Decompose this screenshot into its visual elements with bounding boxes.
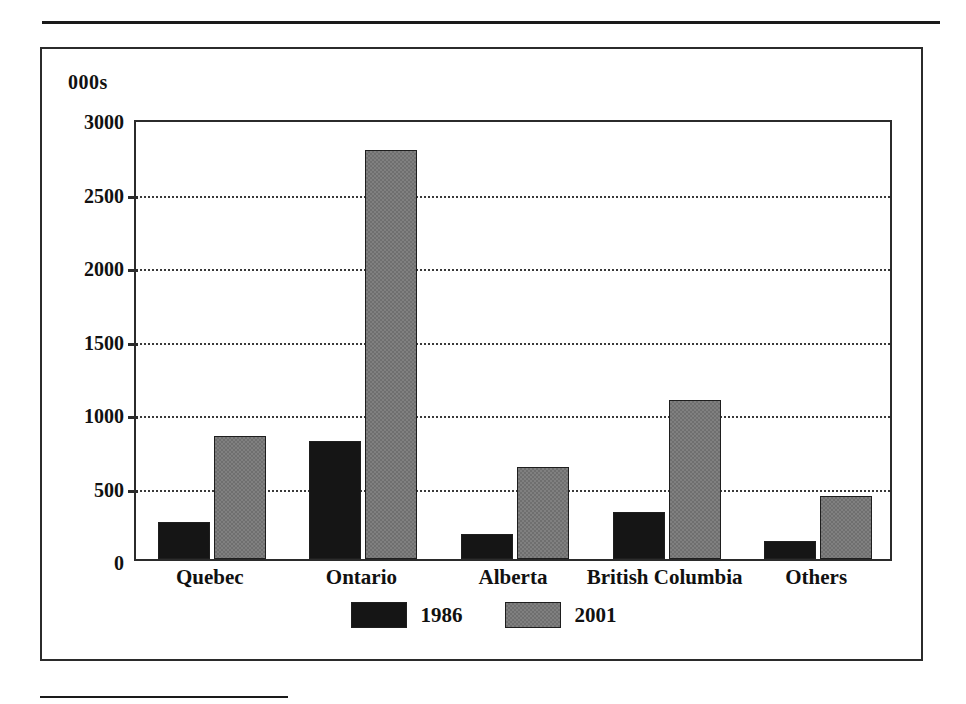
bar-alberta-1986	[461, 534, 513, 559]
bar-ontario-1986	[309, 441, 361, 559]
bar-british-columbia-1986	[613, 512, 665, 559]
bar-group	[309, 122, 417, 559]
y-axis-tick-label: 1000	[84, 405, 124, 428]
y-axis-tick-label: 2000	[84, 258, 124, 281]
legend-label-1986: 1986	[421, 603, 463, 628]
x-axis-label-british-columbia: British Columbia	[587, 565, 743, 590]
x-axis-label-alberta: Alberta	[479, 565, 548, 590]
x-axis-label-ontario: Ontario	[326, 565, 397, 590]
figure-frame: 000s 050010001500200025003000 QuebecOnta…	[40, 47, 923, 661]
bar-ontario-2001	[365, 150, 417, 559]
chart-legend: 19862001	[42, 602, 925, 628]
x-axis-label-others: Others	[785, 565, 847, 590]
bar-chart: 000s 050010001500200025003000 QuebecOnta…	[42, 49, 925, 663]
page-bottom-rule	[40, 696, 288, 698]
bars-layer	[136, 122, 890, 559]
legend-swatch-2001	[505, 602, 561, 628]
legend-swatch-1986	[351, 602, 407, 628]
x-axis-category-labels: QuebecOntarioAlbertaBritish ColumbiaOthe…	[134, 565, 892, 595]
y-axis-tick-label: 500	[94, 478, 124, 501]
legend-label-2001: 2001	[575, 603, 617, 628]
plot-area: 050010001500200025003000	[134, 120, 892, 561]
bar-others-2001	[820, 496, 872, 559]
y-axis-tick-label: 2500	[84, 184, 124, 207]
legend-item-2001: 2001	[505, 602, 617, 628]
bar-quebec-1986	[158, 522, 210, 559]
bar-group	[764, 122, 872, 559]
y-axis-tick-label: 0	[114, 552, 124, 575]
bar-group	[613, 122, 721, 559]
bar-british-columbia-2001	[669, 400, 721, 559]
page-top-rule	[42, 21, 940, 24]
legend-item-1986: 1986	[351, 602, 463, 628]
bar-alberta-2001	[517, 467, 569, 559]
x-axis-label-quebec: Quebec	[176, 565, 244, 590]
y-axis-tick-label: 3000	[84, 111, 124, 134]
bar-group	[461, 122, 569, 559]
y-axis-unit-caption: 000s	[68, 71, 108, 94]
y-axis-tick-label: 1500	[84, 331, 124, 354]
bar-quebec-2001	[214, 436, 266, 559]
bar-others-1986	[764, 541, 816, 559]
bar-group	[158, 122, 266, 559]
